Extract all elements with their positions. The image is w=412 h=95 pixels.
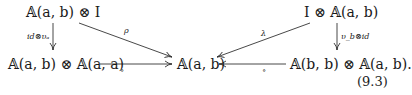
node-top-right: I ⊗ 𝔸(a, b) [304, 4, 378, 20]
label-upsilon-b-id: υ_b⊗id [341, 32, 369, 42]
label-left-composition: ∘ [120, 66, 124, 76]
node-bottom-left: 𝔸(a, b) ⊗ 𝔸(a, a) [8, 56, 124, 72]
label-rho: ρ [124, 26, 129, 36]
node-bottom-right: 𝔸(b, b) ⊗ 𝔸(a, b). [290, 56, 412, 72]
equation-number: (9.3) [357, 74, 388, 89]
label-lambda: λ [261, 29, 266, 39]
label-right-composition: ∘ [262, 66, 266, 76]
node-center: 𝔸(a, b) [177, 56, 225, 72]
label-id-upsilon-a: id⊗υₐ [27, 32, 49, 42]
node-top-left: 𝔸(a, b) ⊗ I [26, 4, 100, 20]
